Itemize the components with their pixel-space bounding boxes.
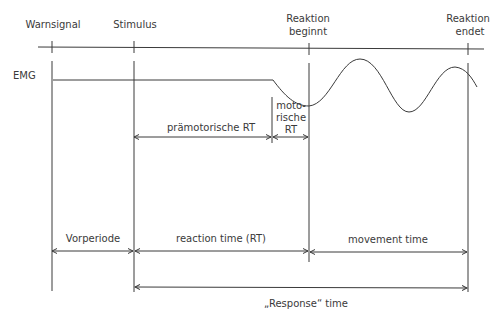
reaktion-beginnt-label-line2: beginnt — [289, 26, 327, 38]
reaktion-beginnt-label-line1: Reaktion — [286, 13, 330, 25]
reaktion-endet-label-line2: endet — [456, 26, 485, 38]
vorperiode-label: Vorperiode — [66, 233, 120, 245]
reaktion-endet-label-line1: Reaktion — [446, 13, 490, 25]
diagram-lines — [0, 0, 503, 319]
warnsignal-label: Warnsignal — [25, 19, 80, 31]
praemotorische-rt-label: prämotorische RT — [167, 122, 255, 134]
emg-trace — [53, 59, 477, 112]
stimulus-label: Stimulus — [113, 19, 156, 31]
response-time-label: „Response“ time — [264, 298, 348, 310]
emg-label: EMG — [13, 70, 36, 82]
motorische-rt-label-3: RT — [285, 124, 297, 136]
movement-time-label: movement time — [348, 234, 428, 246]
motorische-rt-label-2: rische — [276, 112, 306, 124]
motorische-rt-label-1: moto- — [276, 100, 306, 112]
timeline-axis — [38, 47, 484, 49]
reaction-time-diagram: Warnsignal Stimulus Reaktion beginnt Rea… — [0, 0, 503, 319]
reaction-time-label: reaction time (RT) — [176, 233, 266, 245]
